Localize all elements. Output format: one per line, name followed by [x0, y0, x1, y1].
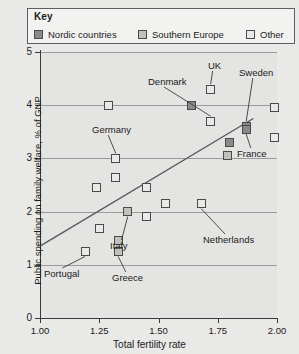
- legend-item-other: Other: [246, 27, 284, 41]
- data-point: [142, 212, 151, 221]
- x-tick: [40, 318, 41, 323]
- data-point-netherlands: [197, 199, 206, 208]
- data-point: [161, 199, 170, 208]
- y-tick-label: 0: [16, 312, 32, 323]
- legend-entries: Nordic countries Southern Europe Other: [34, 27, 292, 41]
- chart-legend: Key Nordic countries Southern Europe Oth…: [27, 8, 295, 44]
- annotation-greece: Greece: [112, 272, 143, 283]
- legend-label-southern-europe: Southern Europe: [152, 29, 224, 40]
- data-point: [270, 103, 279, 112]
- data-point: [270, 133, 279, 142]
- annotation-france: France: [237, 148, 267, 159]
- data-point: [187, 101, 196, 110]
- data-point: [92, 183, 101, 192]
- legend-item-southern-europe: Southern Europe: [138, 27, 224, 41]
- annotation-italy: Italy: [110, 240, 127, 251]
- x-tick-label: 2.00: [257, 325, 297, 336]
- x-tick-label: 1.50: [139, 325, 179, 336]
- legend-swatch-other-icon: [246, 30, 255, 39]
- data-point-portugal: [81, 247, 90, 256]
- annotation-denmark: Denmark: [148, 76, 187, 87]
- x-tick: [159, 318, 160, 323]
- legend-item-nordic: Nordic countries: [34, 27, 117, 41]
- data-point-uk: [206, 85, 215, 94]
- x-tick-label: 1.75: [198, 325, 238, 336]
- annotation-sweden: Sweden: [239, 67, 273, 78]
- data-point: [225, 138, 234, 147]
- gridline: [40, 212, 277, 213]
- y-tick-label: 1: [16, 259, 32, 270]
- data-point: [223, 151, 232, 160]
- data-point: [142, 183, 151, 192]
- x-tick: [277, 318, 278, 323]
- gridline: [40, 265, 277, 266]
- legend-title: Key: [34, 11, 53, 22]
- x-tick-label: 1.25: [79, 325, 119, 336]
- annotation-netherlands: Netherlands: [203, 234, 254, 245]
- data-point: [95, 224, 104, 233]
- y-tick-label: 3: [16, 152, 32, 163]
- y-tick-label: 4: [16, 99, 32, 110]
- annotation-portugal: Portugal: [44, 268, 79, 279]
- data-point-france: [242, 125, 251, 134]
- x-tick: [218, 318, 219, 323]
- legend-swatch-southern-europe-icon: [138, 30, 147, 39]
- legend-swatch-nordic-icon: [34, 30, 43, 39]
- data-point: [104, 101, 113, 110]
- x-tick: [99, 318, 100, 323]
- x-tick-label: 1.00: [20, 325, 60, 336]
- data-point-germany: [111, 154, 120, 163]
- chart-figure: Key Nordic countries Southern Europe Oth…: [0, 0, 299, 354]
- data-point-denmark: [206, 117, 215, 126]
- gridline: [40, 105, 277, 106]
- legend-label-nordic: Nordic countries: [48, 29, 117, 40]
- y-tick: [35, 52, 40, 53]
- annotation-germany: Germany: [92, 124, 131, 135]
- y-tick-label: 5: [16, 46, 32, 57]
- data-point: [111, 173, 120, 182]
- y-tick-label: 2: [16, 206, 32, 217]
- data-point-italy: [123, 207, 132, 216]
- gridline: [40, 52, 277, 53]
- legend-label-other: Other: [260, 29, 284, 40]
- y-axis-label: Public spending on family welfare, % of …: [32, 66, 43, 316]
- x-axis-label: Total fertility rate: [0, 339, 299, 350]
- annotation-uk: UK: [208, 60, 221, 71]
